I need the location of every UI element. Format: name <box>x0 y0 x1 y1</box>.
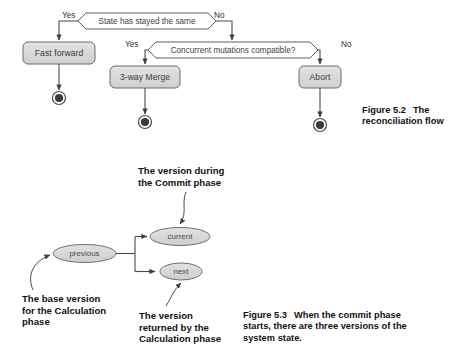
caption-5-3-line1: When the commit phase <box>294 310 401 320</box>
annotation-returned-version: The version returned by the Calculation … <box>139 310 221 345</box>
annotation-base-line-3: phase <box>22 316 106 328</box>
end-state-fast-forward <box>53 92 66 105</box>
edge-d1-no <box>216 21 232 40</box>
caption-5-2-number: Figure 5.2 <box>362 105 406 115</box>
annotation-commit-line-2: the Commit phase <box>138 177 224 189</box>
branch-label-d1-no: No <box>214 11 224 20</box>
action-label-fast-forward: Fast forward <box>23 48 95 58</box>
branch-label-d2-yes: Yes <box>125 40 138 49</box>
caption-5-2-line1: The <box>413 105 430 115</box>
caption-5-2-line2: reconciliation flow <box>362 116 444 127</box>
decision-label-concurrent-mutations-compatible: Concurrent mutations compatible? <box>148 46 318 55</box>
node-label-next: next <box>160 267 202 276</box>
annotation-returned-line-2: returned by the <box>139 322 221 334</box>
end-state-three-way-merge <box>139 116 152 129</box>
leader-base-version <box>31 255 50 290</box>
branch-label-d1-yes: Yes <box>62 11 75 20</box>
edge-d1-yes <box>59 21 78 40</box>
caption-5-3-line3: system state. <box>243 333 407 344</box>
annotation-base-line-2: for the Calculation <box>22 305 106 317</box>
edge-d2-no <box>318 50 320 64</box>
annotation-base-version: The base version for the Calculation pha… <box>22 293 106 328</box>
annotation-commit-phase-version: The version during the Commit phase <box>138 165 224 188</box>
annotation-returned-line-1: The version <box>139 310 221 322</box>
action-label-abort: Abort <box>299 72 341 82</box>
annotation-commit-line-1: The version during <box>138 165 224 177</box>
leader-commit-phase-version <box>180 192 186 224</box>
decision-label-state-has-stayed-the-same: State has stayed the same <box>78 17 216 26</box>
branch-label-d2-no: No <box>341 40 351 49</box>
end-state-abort <box>314 119 327 132</box>
caption-5-3-number: Figure 5.3 <box>243 310 287 320</box>
node-label-previous: previous <box>53 249 116 258</box>
caption-figure-5-3: Figure 5.3When the commit phase starts, … <box>243 310 407 344</box>
caption-5-3-line2: starts, there are three versions of the <box>243 321 407 332</box>
annotation-base-line-1: The base version <box>22 293 106 305</box>
node-label-current: current <box>150 232 210 241</box>
figure-page: State has stayed the same Concurrent mut… <box>0 0 462 363</box>
action-label-three-way-merge: 3-way Merge <box>110 72 180 82</box>
caption-figure-5-2: Figure 5.2The reconciliation flow <box>362 105 444 128</box>
leader-returned-version <box>166 283 181 306</box>
annotation-returned-line-3: Calculation phase <box>139 333 221 345</box>
edge-previous-fork <box>116 237 155 272</box>
